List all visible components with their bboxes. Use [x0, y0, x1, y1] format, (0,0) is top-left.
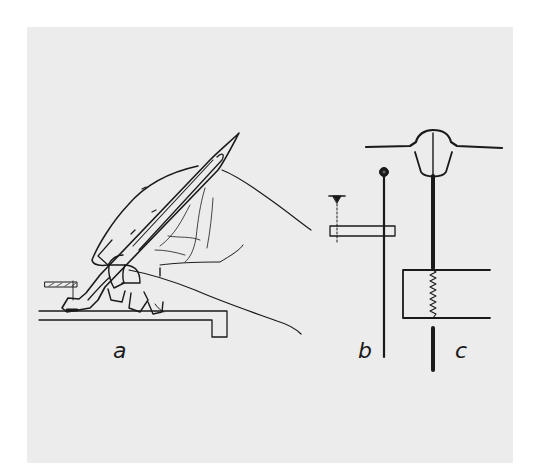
coil-spring	[430, 270, 436, 318]
panel-b-drawing	[329, 168, 395, 358]
panel-label-c: c	[455, 340, 467, 362]
spring-housing	[403, 270, 490, 318]
hand-contour	[129, 170, 311, 334]
panel-label-a: a	[113, 340, 126, 362]
panel-a-drawing	[39, 133, 311, 337]
horizontal-bar	[330, 226, 395, 236]
pen-instrument	[62, 133, 239, 312]
hand-veins	[155, 188, 213, 262]
panel-c-drawing	[366, 130, 502, 370]
diagram-canvas	[0, 0, 538, 476]
thumb-and-fingers	[88, 265, 164, 314]
top-surface-line	[366, 130, 502, 148]
marker-triangle	[329, 196, 345, 242]
index-finger	[92, 166, 198, 265]
hatched-bar	[45, 281, 77, 300]
panel-label-b: b	[358, 340, 372, 362]
table-surface	[39, 311, 227, 337]
